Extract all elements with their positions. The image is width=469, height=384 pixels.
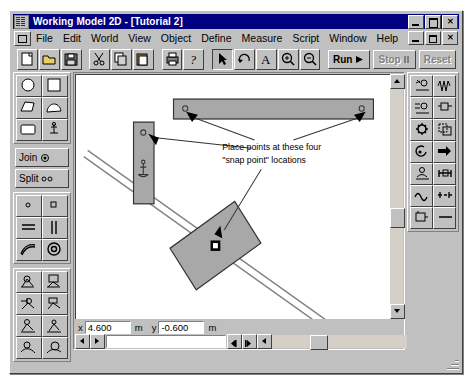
tape-step-back-button[interactable] (227, 334, 242, 349)
tape-track[interactable] (106, 335, 226, 348)
rotate-icon[interactable] (234, 49, 255, 70)
small-square-icon[interactable] (42, 195, 68, 217)
cut-button[interactable] (89, 49, 110, 70)
menu-item-script[interactable]: Script (287, 31, 324, 45)
magnifier-plus-icon[interactable] (278, 49, 299, 70)
application-window: Working Model 2D - [Tutorial 2] ✕ File E… (9, 10, 463, 374)
simulation-canvas[interactable]: Place points at these four "snap point" … (76, 75, 390, 319)
damper-icon[interactable] (42, 315, 68, 337)
constraint-meter-icon[interactable] (433, 163, 456, 185)
square-icon[interactable] (42, 75, 68, 97)
rotational-damper-icon[interactable] (42, 293, 68, 315)
x-coordinate-label: x (78, 322, 83, 333)
small-dot-icon[interactable] (16, 195, 42, 217)
tape-play-button[interactable] (90, 334, 105, 349)
curved-shape-icon[interactable] (42, 97, 68, 119)
tape-rewind-button[interactable] (75, 334, 90, 349)
arc-slot-icon[interactable] (16, 239, 42, 261)
motor-icon[interactable] (16, 271, 42, 293)
double-horizontal-line-icon[interactable] (16, 217, 42, 239)
vertical-scroll-thumb[interactable] (390, 208, 405, 228)
menu-item-window[interactable]: Window (324, 31, 371, 45)
scroll-up-button[interactable] (390, 74, 405, 89)
horizontal-scrollbar[interactable] (272, 335, 420, 348)
run-button[interactable]: Run (328, 50, 370, 69)
rotational-spring-icon[interactable] (42, 271, 68, 293)
help-button[interactable]: ? (183, 49, 204, 70)
save-file-button[interactable] (61, 49, 82, 70)
output-box-icon[interactable] (410, 207, 433, 229)
menu-item-object[interactable]: Object (156, 31, 196, 45)
document-close-button[interactable]: ✕ (442, 31, 458, 45)
horizontal-scroll-left-button[interactable] (257, 334, 272, 349)
close-button[interactable]: ✕ (442, 15, 458, 29)
horizontal-line-icon[interactable] (433, 207, 456, 229)
join-label: Join (19, 152, 37, 163)
rope-icon[interactable] (16, 337, 42, 359)
separator-icon[interactable] (42, 337, 68, 359)
stop-button[interactable]: Stop (373, 50, 415, 69)
actuator-icon[interactable] (16, 293, 42, 315)
document-menu-icon[interactable] (14, 31, 31, 46)
coordinate-status-bar: x 4.600 m y -0.600 m (75, 320, 390, 334)
menu-item-file[interactable]: File (31, 31, 58, 45)
annotation-line-1: Place points at these four (222, 142, 321, 152)
title-bar: Working Model 2D - [Tutorial 2] ✕ (13, 14, 459, 29)
annotation-line-2: "snap point" locations (222, 155, 306, 165)
tape-step-forward-button[interactable] (242, 334, 257, 349)
electrostatics-icon[interactable] (433, 97, 456, 119)
concentric-circle-icon[interactable] (42, 239, 68, 261)
simulation-canvas-area[interactable]: Place points at these four "snap point" … (75, 74, 390, 319)
rounded-rectangle-icon[interactable] (16, 119, 42, 141)
svg-text:?: ? (190, 53, 196, 66)
print-button[interactable] (162, 49, 183, 70)
spring-icon[interactable] (16, 315, 42, 337)
x-coordinate-value[interactable]: 4.600 (85, 321, 131, 334)
menu-item-view[interactable]: View (123, 31, 156, 45)
menu-bar: File Edit World View Object Define Measu… (13, 30, 459, 46)
menu-item-define[interactable]: Define (196, 31, 236, 45)
duplicate-shape-icon[interactable] (433, 119, 456, 141)
double-vertical-line-icon[interactable] (42, 217, 68, 239)
torque-icon[interactable] (410, 141, 433, 163)
vertical-scrollbar[interactable] (390, 74, 403, 319)
maximize-button[interactable] (425, 15, 441, 29)
reset-button[interactable]: Reset (419, 50, 456, 69)
menu-item-world[interactable]: World (86, 31, 123, 45)
open-folder-icon[interactable] (39, 49, 60, 70)
copy-button[interactable] (111, 49, 132, 70)
arrow-pointer-icon[interactable] (212, 49, 233, 70)
reset-label: Reset (424, 54, 451, 65)
split-button[interactable]: Split (15, 169, 69, 188)
air-resistance-icon[interactable] (410, 97, 433, 119)
paste-button[interactable] (133, 49, 154, 70)
menu-item-measure[interactable]: Measure (237, 31, 288, 45)
plus-minus-icon[interactable] (433, 185, 456, 207)
window-title: Working Model 2D - [Tutorial 2] (33, 16, 183, 27)
minimize-button[interactable] (408, 15, 424, 29)
gear-icon[interactable] (410, 119, 433, 141)
horizontal-scroll-thumb[interactable] (310, 335, 328, 350)
menu-item-help[interactable]: Help (372, 31, 404, 45)
y-coordinate-value[interactable]: -0.600 (158, 321, 204, 334)
wave-icon[interactable] (433, 75, 456, 97)
menu-item-edit[interactable]: Edit (58, 31, 86, 45)
join-button[interactable]: Join (15, 148, 69, 167)
new-file-button[interactable] (17, 49, 38, 70)
text-a-icon[interactable]: A (256, 49, 277, 70)
scroll-down-button[interactable] (390, 304, 405, 319)
right-arrow-icon[interactable] (433, 141, 456, 163)
document-minimize-button[interactable] (408, 31, 424, 45)
sine-wave-icon[interactable] (410, 185, 433, 207)
resize-grip[interactable] (447, 358, 459, 370)
left-tool-palette: Join Split (13, 72, 71, 370)
circle-icon[interactable] (16, 75, 42, 97)
magnifier-minus-icon[interactable] (300, 49, 321, 70)
anchor-icon[interactable] (42, 119, 68, 141)
y-coordinate-unit: m (208, 322, 216, 333)
actuator-tool-group (13, 268, 71, 362)
position-meter-icon[interactable] (410, 163, 433, 185)
polygon-icon[interactable] (16, 97, 42, 119)
document-restore-button[interactable] (425, 31, 441, 45)
gravity-icon[interactable] (410, 75, 433, 97)
